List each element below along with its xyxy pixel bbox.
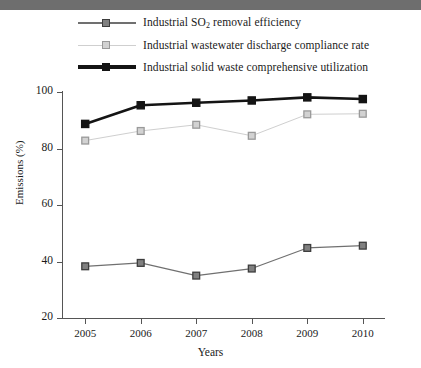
- chart-figure: Industrial SO2 removal efficiency Indust…: [0, 10, 421, 368]
- x-tick-label: 2009: [296, 327, 318, 339]
- data-point-marker: [137, 260, 144, 267]
- data-point-marker: [82, 120, 89, 127]
- data-point-marker: [248, 132, 255, 139]
- chart-legend: Industrial SO2 removal efficiency Indust…: [0, 12, 421, 78]
- legend-item-wastewater: Industrial wastewater discharge complian…: [0, 34, 421, 56]
- data-point-marker: [248, 265, 255, 272]
- y-tick-label: 80: [42, 141, 54, 153]
- series-line-0: [85, 246, 363, 276]
- plot-area: 20406080100200520062007200820092010: [63, 92, 385, 318]
- x-tick-label: 2006: [130, 327, 152, 339]
- legend-marker-solid-waste: [102, 63, 110, 71]
- top-banner-strip: [0, 0, 421, 10]
- legend-label-solid-waste: Industrial solid waste comprehensive uti…: [143, 61, 368, 73]
- data-point-marker: [248, 97, 255, 104]
- x-tick-label: 2008: [241, 327, 263, 339]
- y-tick-label: 40: [42, 254, 54, 266]
- x-axis-title: Years: [0, 346, 421, 358]
- x-tick: [85, 318, 86, 324]
- legend-swatch-wastewater: [78, 38, 136, 52]
- x-tick-label: 2007: [185, 327, 207, 339]
- y-tick: 40: [57, 262, 63, 263]
- legend-marker-so2: [102, 19, 110, 27]
- data-point-marker: [304, 111, 311, 118]
- x-tick: [196, 318, 197, 324]
- y-tick: 60: [57, 205, 63, 206]
- series-line-2: [85, 97, 363, 124]
- data-point-marker: [137, 102, 144, 109]
- data-point-marker: [359, 95, 366, 102]
- series-line-1: [85, 114, 363, 141]
- y-tick-label: 20: [42, 310, 54, 322]
- x-tick: [363, 318, 364, 324]
- x-axis-line: [62, 318, 385, 319]
- data-point-marker: [359, 110, 366, 117]
- legend-swatch-solid-waste: [78, 60, 136, 74]
- legend-item-so2: Industrial SO2 removal efficiency: [0, 12, 421, 34]
- y-tick: 80: [57, 149, 63, 150]
- y-tick: 20: [57, 318, 63, 319]
- y-tick: 100: [57, 92, 63, 93]
- data-point-marker: [193, 121, 200, 128]
- x-tick-label: 2010: [352, 327, 374, 339]
- x-tick: [252, 318, 253, 324]
- data-point-marker: [193, 99, 200, 106]
- data-point-marker: [137, 128, 144, 135]
- y-tick-label: 100: [36, 84, 53, 96]
- x-tick: [141, 318, 142, 324]
- legend-swatch-so2: [78, 16, 136, 30]
- legend-label-wastewater: Industrial wastewater discharge complian…: [143, 39, 369, 51]
- x-tick: [307, 318, 308, 324]
- data-point-marker: [82, 263, 89, 270]
- x-tick-label: 2005: [74, 327, 96, 339]
- data-point-marker: [193, 272, 200, 279]
- data-point-marker: [304, 94, 311, 101]
- y-tick-label: 60: [42, 197, 54, 209]
- data-point-marker: [304, 245, 311, 252]
- legend-marker-wastewater: [102, 41, 110, 49]
- data-point-marker: [82, 137, 89, 144]
- legend-item-solid-waste: Industrial solid waste comprehensive uti…: [0, 56, 421, 78]
- plot-svg: [63, 92, 385, 318]
- data-point-marker: [359, 242, 366, 249]
- legend-label-so2: Industrial SO2 removal efficiency: [143, 16, 301, 30]
- y-axis-title: Emissions (%): [13, 141, 25, 205]
